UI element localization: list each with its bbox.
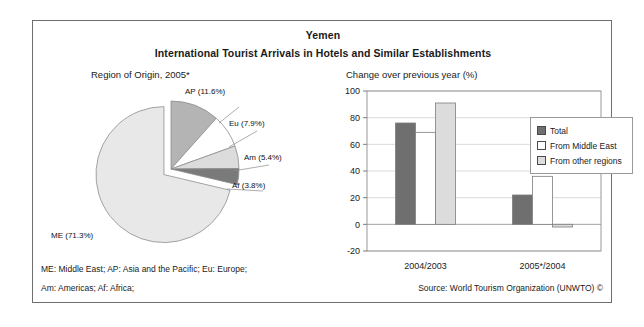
pie-label-me: ME (71.3%) xyxy=(51,231,93,240)
footnote-abbreviations-line2: Am: Americas; Af: Africa; xyxy=(41,283,134,293)
pie-label-ap: AP (11.6%) xyxy=(185,87,225,96)
legend-swatch-total xyxy=(537,126,546,135)
pie-chart-panel: AP (11.6%) Eu (7.9%) Am (5.4%) Af (3.8%)… xyxy=(33,81,323,266)
figure-root: Yemen International Tourist Arrivals in … xyxy=(0,0,644,327)
pie-chart-svg xyxy=(71,85,281,260)
bar-20052004-from-middle-east xyxy=(533,176,553,224)
ytick-label-20: 20 xyxy=(350,193,360,203)
ytick-label-80: 80 xyxy=(350,113,360,123)
xtick-label-1: 2005*/2004 xyxy=(519,261,565,271)
page-title: Yemen xyxy=(33,29,613,41)
bar-chart-heading: Change over previous year (%) xyxy=(346,69,477,80)
bar-20052004-from-other-regions xyxy=(553,224,573,227)
xtick-label-0: 2004/2003 xyxy=(404,261,447,271)
legend-item-from-other-regions[interactable]: From other regions xyxy=(537,153,627,168)
bar-20042003-from-middle-east xyxy=(416,132,436,224)
bar-chart-svg: -20020406080100 2004/20032005*/2004 xyxy=(323,81,613,281)
bar-chart-legend: Total From Middle East From other region… xyxy=(530,117,633,174)
bar-20042003-from-other-regions xyxy=(436,103,456,224)
pie-label-am: Am (5.4%) xyxy=(244,153,282,162)
legend-swatch-from-other-regions xyxy=(537,156,546,165)
legend-label-total: Total xyxy=(550,126,568,136)
pie-label-eu: Eu (7.9%) xyxy=(229,119,265,128)
footnote-abbreviations-line1: ME: Middle East; AP: Asia and the Pacifi… xyxy=(41,264,247,274)
ytick-label--20: -20 xyxy=(347,246,360,256)
ytick-label-60: 60 xyxy=(350,140,360,150)
legend-label-from-middle-east: From Middle East xyxy=(550,141,617,151)
bar-20052004-total xyxy=(513,195,533,224)
pie-chart-heading: Region of Origin, 2005* xyxy=(91,69,190,80)
legend-label-from-other-regions: From other regions xyxy=(550,156,622,166)
chart-frame: Yemen International Tourist Arrivals in … xyxy=(32,20,612,303)
ytick-label-40: 40 xyxy=(350,166,360,176)
ytick-label-100: 100 xyxy=(345,86,360,96)
legend-item-from-middle-east[interactable]: From Middle East xyxy=(537,138,627,153)
page-subtitle: International Tourist Arrivals in Hotels… xyxy=(33,47,613,59)
ytick-label-0: 0 xyxy=(355,220,360,230)
bar-chart-panel: -20020406080100 2004/20032005*/2004 xyxy=(323,81,613,281)
legend-swatch-from-middle-east xyxy=(537,141,546,150)
source-note: Source: World Tourism Organization (UNWT… xyxy=(418,283,603,293)
pie-leader-line-1 xyxy=(229,131,257,147)
bar-20042003-total xyxy=(396,123,416,224)
pie-label-af: Af (3.8%) xyxy=(232,181,265,190)
legend-item-total[interactable]: Total xyxy=(537,123,627,138)
